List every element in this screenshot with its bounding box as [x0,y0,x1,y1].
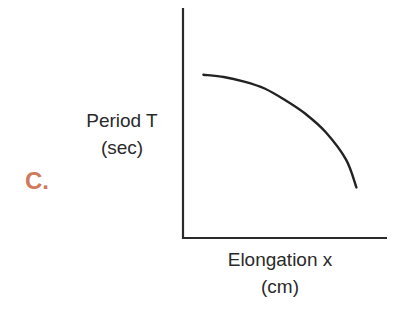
data-curve [203,75,356,188]
plot-area [0,0,407,320]
